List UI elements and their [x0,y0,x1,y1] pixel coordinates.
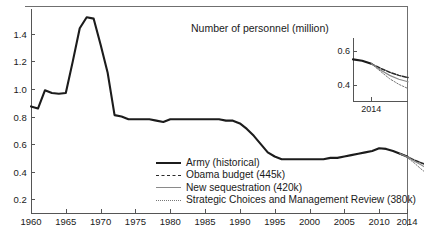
inset-plot-area [353,38,408,102]
y-tick-label: 1.4 [0,28,27,39]
x-tick-label: 1990 [229,216,250,227]
legend-item-obama-budget: Obama budget (445k) [156,169,416,182]
x-tick-label: 1995 [264,216,285,227]
x-tick-label: 1975 [125,216,146,227]
y-tick-label: 1.0 [0,83,27,94]
x-tick [407,209,408,214]
x-tick-label: 1985 [194,216,215,227]
chart-legend: Army (historical) Obama budget (445k) Ne… [156,156,416,206]
y-tick-label: 0.6 [0,139,27,150]
inset-chart: 0.40.6 2014 [326,38,408,108]
x-axis-line [31,213,408,214]
y-tick-label: 1.2 [0,56,27,67]
x-tick-label: 1970 [90,216,111,227]
x-tick-label: 1960 [20,216,41,227]
legend-label-new-sequestration: New sequestration (420k) [186,182,302,193]
y-tick-label: 0.8 [0,111,27,122]
legend-swatch-obama-budget [156,170,181,180]
legend-label-scmr: Strategic Choices and Management Review … [186,194,416,205]
legend-swatch-scmr [156,195,181,205]
legend-item-scmr: Strategic Choices and Management Review … [156,194,416,207]
legend-label-obama-budget: Obama budget (445k) [186,169,285,180]
inset-x-tick-label: 2014 [361,104,381,114]
figure-top-border [25,6,408,7]
inset-series-line [353,59,371,63]
chart-figure: Number of personnel (million) 0.20.40.60… [0,0,424,243]
legend-item-army-historical: Army (historical) [156,156,416,169]
x-tick-label: 2014 [396,216,417,227]
legend-label-army-historical: Army (historical) [186,157,260,168]
inset-y-tick-label: 0.4 [326,80,350,90]
inset-y-tick-label: 0.6 [326,46,350,56]
x-tick-label: 1965 [55,216,76,227]
x-tick-label: 2005 [334,216,355,227]
legend-swatch-new-sequestration [156,182,181,192]
y-tick-label: 0.2 [0,194,27,205]
legend-swatch-army-historical [156,157,181,167]
legend-item-new-sequestration: New sequestration (420k) [156,181,416,194]
x-tick-label: 2010 [369,216,390,227]
y-tick-label: 0.4 [0,166,27,177]
x-tick-label: 1980 [160,216,181,227]
x-tick-label: 2000 [299,216,320,227]
